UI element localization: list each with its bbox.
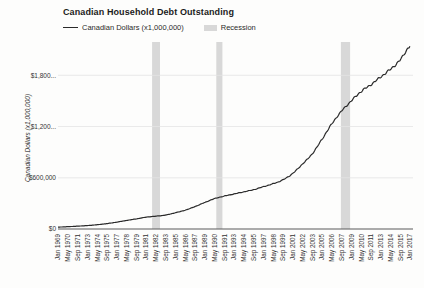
y-axis-title: Canadian Dollars (x1,000,000): [24, 94, 32, 182]
x-tick-label: May 1986: [182, 234, 190, 262]
x-tick-label: May 1974: [94, 234, 102, 262]
x-tick-label: May 1994: [240, 234, 248, 262]
x-tick-label: Jan 1981: [142, 234, 149, 260]
x-tick-label: Jan 2009: [348, 234, 355, 260]
x-tick-label: Jan 2005: [318, 234, 325, 260]
x-tick-label: Jan 1989: [201, 234, 208, 260]
x-tick-label: May 2010: [358, 234, 366, 262]
x-tick-label: Jan 1993: [230, 234, 237, 260]
y-tick-label: $1,800...: [31, 72, 56, 79]
x-tick-label: May 1982: [152, 234, 160, 262]
x-tick-label: Sep 1995: [250, 234, 258, 261]
x-tick-label: May 2006: [328, 234, 336, 262]
x-tick-label: Sep 1971: [74, 234, 82, 261]
x-tick-label: Jan 2013: [377, 234, 384, 260]
y-tick-label: $0: [49, 225, 57, 232]
x-tick-label: May 2002: [299, 234, 307, 262]
debt-line: [58, 46, 410, 227]
recession-band: [216, 42, 222, 229]
x-tick-label: Sep 1999: [279, 234, 287, 261]
x-tick-label: Sep 1979: [133, 234, 141, 261]
x-tick-label: May 1970: [64, 234, 72, 262]
x-tick-label: Sep 1975: [103, 234, 111, 261]
x-tick-label: Jan 1997: [260, 234, 267, 260]
x-tick-label: May 1998: [270, 234, 278, 262]
x-tick-label: Sep 1983: [162, 234, 170, 261]
x-tick-label: Jan 1977: [113, 234, 120, 260]
x-tick-label: Jan 2017: [406, 234, 413, 260]
x-tick-label: May 2014: [387, 234, 395, 262]
x-tick-label: Jan 2001: [289, 234, 296, 260]
x-tick-label: May 1978: [123, 234, 131, 262]
x-tick-label: Jan 1969: [54, 234, 61, 260]
y-tick-label: $1,200...: [31, 123, 56, 130]
recession-band: [341, 42, 350, 229]
recession-band: [152, 42, 160, 229]
x-tick-label: Jan 1985: [172, 234, 179, 260]
x-tick-label: Sep 2003: [309, 234, 317, 261]
x-tick-label: Jan 1973: [84, 234, 91, 260]
x-tick-label: Sep 2007: [338, 234, 346, 261]
chart-page: Canadian Household Debt Outstanding Cana…: [0, 0, 424, 288]
x-tick-label: Sep 1987: [191, 234, 199, 261]
x-tick-label: Sep 2015: [397, 234, 405, 261]
plot-area: $0$600,000$1,200...$1,800...Jan 1969May …: [0, 0, 424, 288]
y-tick-label: $600,000: [29, 174, 56, 181]
x-tick-label: May 1990: [211, 234, 219, 262]
x-tick-label: Sep 1991: [221, 234, 229, 261]
x-tick-label: Sep 2011: [367, 234, 375, 261]
